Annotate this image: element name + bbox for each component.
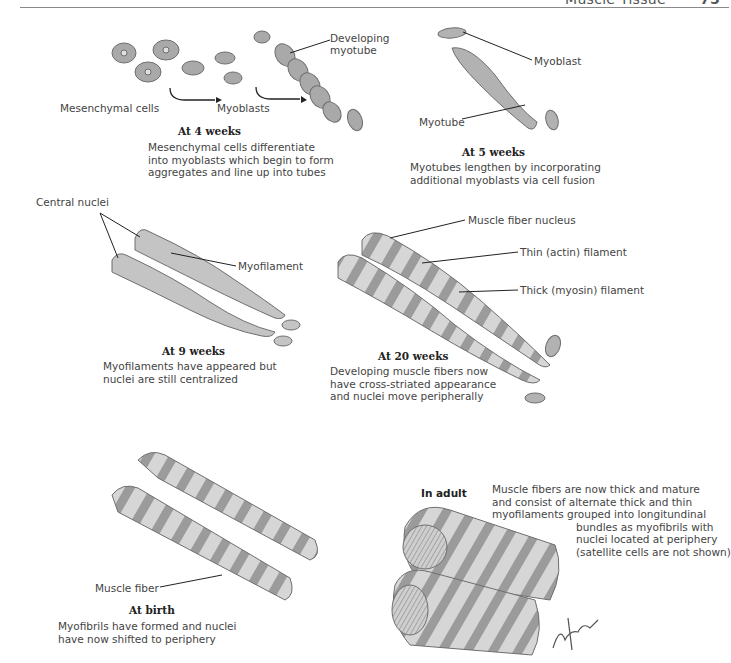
desc-line: additional myoblasts via cell fusion xyxy=(410,174,601,187)
label-developing: Developing xyxy=(330,32,389,44)
panel-description-at-birth: Myofibrils have formed and nuclei have n… xyxy=(58,620,236,645)
desc-line: Muscle fibers are now thick and mature xyxy=(492,483,731,496)
panel-description-5-weeks: Myotubes lengthen by incorporating addit… xyxy=(410,161,601,186)
label-thin-actin-filament: Thin (actin) filament xyxy=(520,246,627,258)
myotubes-9-weeks xyxy=(112,230,300,346)
label-mesenchymal-cells: Mesenchymal cells xyxy=(60,102,159,114)
desc-line: myofilaments grouped into longitundinal xyxy=(492,508,731,521)
panel-title-20-weeks: At 20 weeks xyxy=(378,350,448,362)
myoblasts-group xyxy=(182,31,270,84)
panel-title-9-weeks: At 9 weeks xyxy=(162,345,225,357)
desc-line: into myoblasts which begin to form xyxy=(148,154,334,167)
panel-title-5-weeks: At 5 weeks xyxy=(462,146,525,158)
label-muscle-fiber-nucleus: Muscle fiber nucleus xyxy=(468,214,576,226)
desc-line: Myofilaments have appeared but xyxy=(103,360,277,373)
fibers-at-birth xyxy=(112,452,318,600)
desc-line: nuclei are still centralized xyxy=(103,373,277,386)
desc-line: aggregates and line up into tubes xyxy=(148,166,334,179)
desc-line: Developing muscle fibers now xyxy=(330,365,496,378)
label-myoblast: Myoblast xyxy=(534,55,581,67)
desc-line: and consist of alternate thick and thin xyxy=(492,496,731,509)
desc-line: Myotubes lengthen by incorporating xyxy=(410,161,601,174)
mesenchymal-cells-group xyxy=(112,40,179,82)
panel-title-at-birth: At birth xyxy=(129,604,175,616)
desc-line: bundles as myofibrils with xyxy=(492,521,731,534)
label-myotube-5: Myotube xyxy=(419,116,465,128)
panel-description-20-weeks: Developing muscle fibers now have cross-… xyxy=(330,365,496,403)
desc-line: Myofibrils have formed and nuclei xyxy=(58,620,236,633)
panel-description-4-weeks: Mesenchymal cells differentiate into myo… xyxy=(148,141,334,179)
panel-description-9-weeks: Myofilaments have appeared but nuclei ar… xyxy=(103,360,277,385)
label-central-nuclei: Central nuclei xyxy=(36,196,109,208)
panel-title-4-weeks: At 4 weeks xyxy=(178,125,241,137)
arrows xyxy=(170,87,300,100)
panel-title-in-adult: In adult xyxy=(421,487,467,499)
label-muscle-fiber: Muscle fiber xyxy=(95,582,159,594)
desc-line: Mesenchymal cells differentiate xyxy=(148,141,334,154)
label-myofilament: Myofilament xyxy=(238,260,303,272)
desc-line: have now shifted to periphery xyxy=(58,633,236,646)
label-thick-myosin-filament: Thick (myosin) filament xyxy=(520,284,644,296)
label-myotube: myotube xyxy=(330,44,377,56)
desc-line: have cross-striated appearance xyxy=(330,378,496,391)
panel-description-in-adult: Muscle fibers are now thick and mature a… xyxy=(492,483,731,558)
desc-line: nuclei located at periphery xyxy=(492,533,731,546)
desc-line: and nuclei move peripherally xyxy=(330,390,496,403)
netter-signature-icon xyxy=(553,618,598,650)
desc-line: (satellite cells are not shown) xyxy=(492,546,731,559)
label-myoblasts: Myoblasts xyxy=(217,102,270,114)
